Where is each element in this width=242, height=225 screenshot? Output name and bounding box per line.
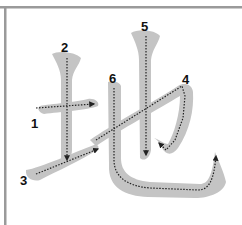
- stroke-label-3: 3: [20, 173, 27, 188]
- stroke-5-shape: [131, 30, 160, 159]
- stroke-label-5: 5: [141, 19, 148, 34]
- character-strokes: [26, 30, 226, 198]
- stroke-label-4: 4: [182, 72, 190, 87]
- stroke-order-diagram: 1 2 3 4 5 6: [0, 0, 242, 225]
- stroke-order-svg: 1 2 3 4 5 6: [0, 0, 242, 225]
- stroke-label-6: 6: [109, 71, 116, 86]
- stroke-label-1: 1: [31, 116, 38, 131]
- stroke-label-2: 2: [61, 40, 68, 55]
